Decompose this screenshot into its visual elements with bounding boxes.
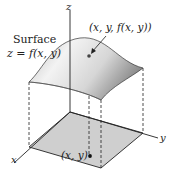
y-axis-label: y	[160, 133, 166, 143]
x-axis-label: x	[11, 155, 17, 165]
domain-point	[88, 154, 92, 158]
z-axis-label: z	[66, 2, 71, 12]
surface-diagram: z y x Surface z = f(x, y) (x, y, f(x, y)…	[0, 0, 175, 177]
surface-point-label: (x, y, f(x, y))	[89, 22, 152, 33]
surface-point	[87, 54, 91, 58]
surface-label: Surface	[13, 34, 56, 45]
domain-point-label: (x, y)	[61, 150, 88, 161]
surface-equation: z = f(x, y)	[7, 48, 61, 59]
